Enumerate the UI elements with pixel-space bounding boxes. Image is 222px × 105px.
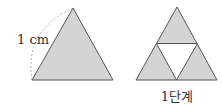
diagram-canvas: 1 cm 1단계: [0, 0, 222, 105]
side-length-label: 1 cm: [17, 32, 49, 47]
original-triangle: 1 cm: [17, 8, 113, 80]
stage-caption: 1단계: [161, 89, 193, 104]
stage-1-triangle: 1단계: [136, 7, 217, 104]
